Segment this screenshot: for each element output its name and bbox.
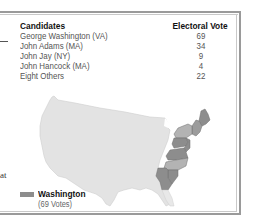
state-north-carolina — [164, 158, 188, 170]
state-virginia — [166, 148, 188, 160]
legend-sublabel-votes: (69 Votes) — [38, 199, 72, 209]
legend-label-washington: Washington — [38, 188, 86, 199]
legend-swatch-washington — [20, 192, 34, 197]
state-new-york — [174, 124, 192, 138]
